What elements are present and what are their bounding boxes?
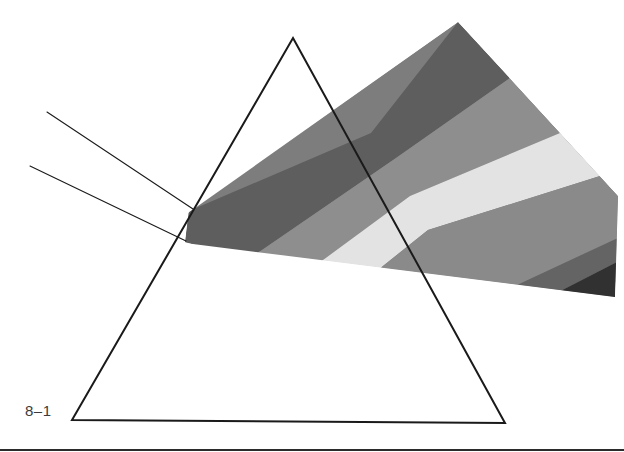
prism-dispersion-illustration [0,0,624,452]
bottom-divider-rule [0,449,624,451]
figure-container: 8–1 [0,0,624,452]
figure-number-label: 8–1 [25,402,52,419]
